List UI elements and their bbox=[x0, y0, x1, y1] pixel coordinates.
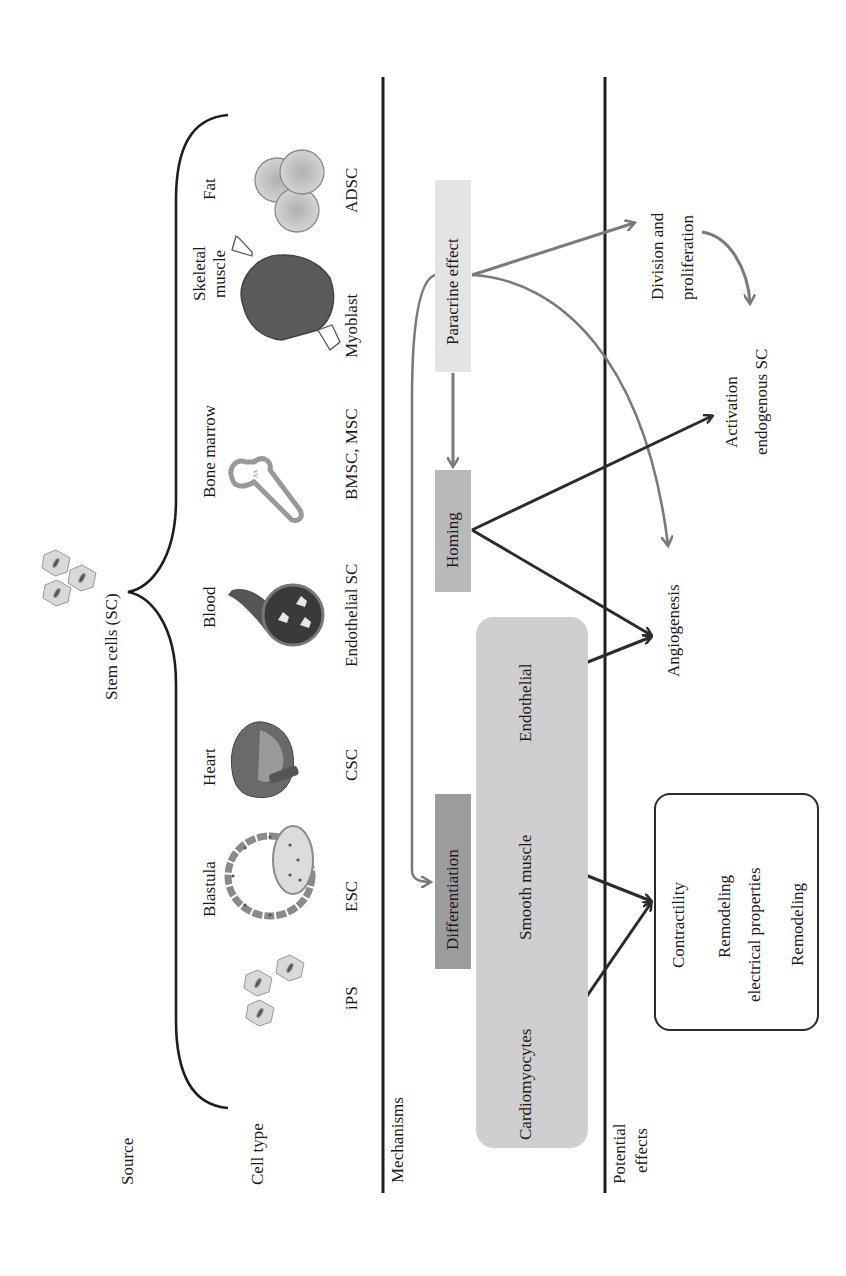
endothelial-label: Endothelial bbox=[516, 664, 536, 742]
endogenous-sc-label: endogenous SC bbox=[752, 349, 772, 455]
ips-cells-icon bbox=[244, 955, 304, 1026]
arrow-paracrine-to-division bbox=[472, 223, 634, 275]
heart-icon bbox=[231, 722, 299, 798]
fat-cells-icon bbox=[255, 150, 324, 232]
row-label-source: Source bbox=[118, 1138, 138, 1185]
arrow-paracrine-to-angiogenesis bbox=[472, 275, 668, 545]
diagram-canvas: ʌʌ bbox=[0, 0, 846, 1276]
source-fat: Fat bbox=[200, 178, 220, 200]
muscle-icon bbox=[232, 236, 340, 350]
stem-cells-icon bbox=[42, 550, 96, 606]
source-skeletal: Skeletal bbox=[190, 246, 210, 301]
remodeling-electrical-line2: electrical properties bbox=[745, 867, 765, 1002]
source-muscle: muscle bbox=[210, 250, 230, 298]
homing-label: Homing bbox=[443, 512, 463, 568]
contractility-label: Contractility bbox=[669, 882, 689, 968]
row-label-cell-type: Cell type bbox=[248, 1123, 268, 1185]
paracrine-effect-label: Paracrine effect bbox=[443, 238, 463, 345]
activation-label: Activation bbox=[722, 376, 742, 448]
differentiation-label: Differentiation bbox=[443, 849, 463, 950]
source-blood: Blood bbox=[200, 586, 220, 628]
division-label: Division and bbox=[648, 213, 668, 300]
arrow-homing-to-activation bbox=[472, 416, 712, 530]
arrow-paracrine-to-differentiation bbox=[412, 275, 435, 882]
smooth-muscle-label: Smooth muscle bbox=[516, 835, 536, 940]
cardiomyocytes-label: Cardiomyocytes bbox=[516, 1029, 536, 1140]
svg-text:ʌʌ: ʌʌ bbox=[251, 470, 259, 479]
source-bone-marrow: Bone marrow bbox=[200, 405, 220, 498]
celltype-myoblast: Myoblast bbox=[342, 294, 362, 358]
source-heart: Heart bbox=[200, 748, 220, 786]
celltype-esc: ESC bbox=[342, 881, 362, 912]
blastula-icon bbox=[228, 826, 313, 917]
celltype-ips: iPS bbox=[342, 986, 362, 1010]
celltype-csc: CSC bbox=[342, 749, 362, 781]
celltype-endothelial-sc: Endothelial SC bbox=[342, 564, 362, 667]
arrow-division-to-activation bbox=[702, 232, 750, 303]
remodeling-electrical-line1: Remodeling bbox=[715, 875, 735, 958]
proliferation-label: proliferation bbox=[678, 215, 698, 300]
remodeling-label: Remodeling bbox=[788, 883, 808, 966]
celltype-bmsc-msc: BMSC, MSC bbox=[342, 408, 362, 500]
row-label-mechanisms: Mechanisms bbox=[388, 1097, 408, 1183]
row-label-effects: effects bbox=[632, 1128, 652, 1173]
source-blastula: Blastula bbox=[200, 861, 220, 917]
diagram-title: Stem cells (SC) bbox=[102, 593, 122, 700]
blood-vessel-icon bbox=[228, 585, 323, 645]
row-label-potential: Potential bbox=[610, 1124, 630, 1184]
bone-icon: ʌʌ bbox=[231, 459, 301, 521]
celltype-adsc: ADSC bbox=[342, 168, 362, 213]
angiogenesis-label: Angiogenesis bbox=[664, 584, 684, 677]
